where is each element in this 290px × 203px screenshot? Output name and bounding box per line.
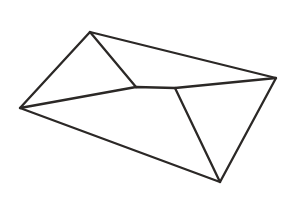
envelope-drawing bbox=[0, 0, 290, 203]
artboard bbox=[0, 0, 290, 203]
background-rect bbox=[0, 0, 290, 203]
